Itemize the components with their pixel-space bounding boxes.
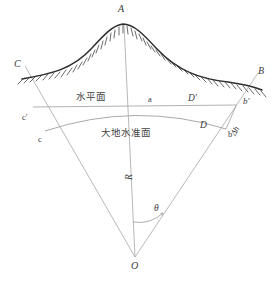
geoid-arc — [45, 115, 226, 131]
radial-line-left — [25, 66, 135, 257]
radial-line-right — [135, 73, 258, 257]
diagram-canvas — [0, 0, 278, 281]
geodesy-diagram: A B C 水平面 大地水准面 a D′ D b′ b Δh c′ c R θ … — [0, 0, 278, 281]
terrain-hatching — [18, 25, 266, 97]
horizontal-plane-line — [33, 105, 237, 107]
height-difference-segment — [226, 106, 236, 129]
angle-arc — [133, 213, 163, 222]
terrain-surface-curve — [22, 24, 262, 90]
